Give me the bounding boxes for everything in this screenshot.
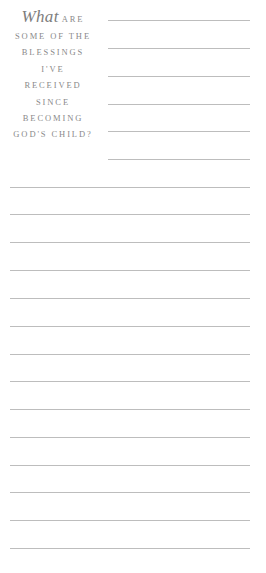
writing-line <box>10 354 250 355</box>
writing-line <box>108 20 250 21</box>
writing-line <box>108 131 250 132</box>
prompt-line-6: SINCE <box>4 94 102 110</box>
writing-line <box>10 214 250 215</box>
writing-line <box>10 520 250 521</box>
prompt-script-word: What <box>22 7 59 26</box>
prompt-line-5: RECEIVED <box>4 77 102 93</box>
prompt-line-3: BLESSINGS <box>4 44 102 60</box>
writing-line <box>10 465 250 466</box>
writing-line <box>108 48 250 49</box>
writing-line <box>108 104 250 105</box>
writing-line <box>108 159 250 160</box>
prompt-line-4: I'VE <box>4 61 102 77</box>
prompt-line-8: GOD'S CHILD? <box>4 126 102 142</box>
writing-line <box>10 242 250 243</box>
writing-line <box>10 492 250 493</box>
writing-line <box>108 76 250 77</box>
journal-prompt: WhatARE SOME OF THE BLESSINGS I'VE RECEI… <box>4 8 102 143</box>
writing-line <box>10 298 250 299</box>
writing-line <box>10 270 250 271</box>
writing-line <box>10 381 250 382</box>
writing-line <box>10 326 250 327</box>
writing-line <box>10 548 250 549</box>
writing-line <box>10 437 250 438</box>
prompt-line-7: BECOMING <box>4 110 102 126</box>
writing-line <box>10 187 250 188</box>
prompt-line-2: SOME OF THE <box>4 28 102 44</box>
prompt-line-1: WhatARE <box>4 8 102 28</box>
writing-line <box>10 409 250 410</box>
